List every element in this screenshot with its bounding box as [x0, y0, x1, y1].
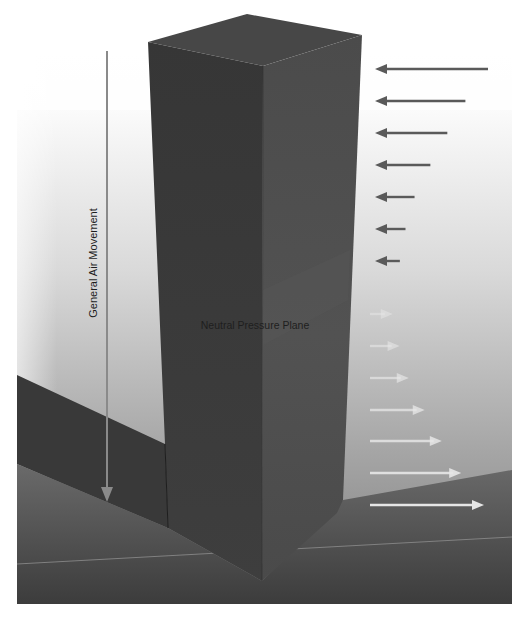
neutral-pressure-plane-label: Neutral Pressure Plane — [201, 319, 310, 331]
stack-effect-diagram: General Air Movement Neutral Pressure Pl… — [0, 0, 524, 622]
general-air-movement-label: General Air Movement — [87, 208, 99, 317]
